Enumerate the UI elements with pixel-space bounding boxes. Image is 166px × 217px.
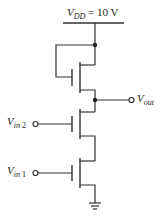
circuit-schematic [0, 0, 166, 217]
junction-dot-vdd [93, 43, 97, 47]
vin1-terminal[interactable] [33, 171, 38, 176]
junction-dot-output [93, 98, 97, 102]
vout-symbol: V [137, 92, 144, 104]
vdd-label: VDD = 10 V [67, 7, 119, 18]
vin2-label: Vin2 [7, 116, 26, 127]
vdd-subscript: DD [74, 12, 86, 21]
vin1-index: 1 [22, 170, 26, 179]
vout-label: Vout [137, 93, 154, 104]
vdd-symbol: V [67, 6, 74, 18]
ground-icon [89, 203, 101, 209]
output-terminal[interactable] [129, 98, 134, 103]
vdd-value: = 10 V [88, 6, 118, 18]
vin1-symbol: V [7, 164, 14, 176]
vin2-terminal[interactable] [33, 122, 38, 127]
vin1-subscript: in [14, 170, 20, 179]
vin2-index: 2 [22, 121, 26, 130]
vin2-symbol: V [7, 115, 14, 127]
input-transistor-1 [38, 158, 95, 203]
load-transistor [56, 45, 95, 112]
vout-subscript: out [144, 98, 154, 107]
vin2-subscript: in [14, 121, 20, 130]
vin1-label: Vin1 [7, 165, 26, 176]
input-transistor-2 [38, 109, 95, 161]
